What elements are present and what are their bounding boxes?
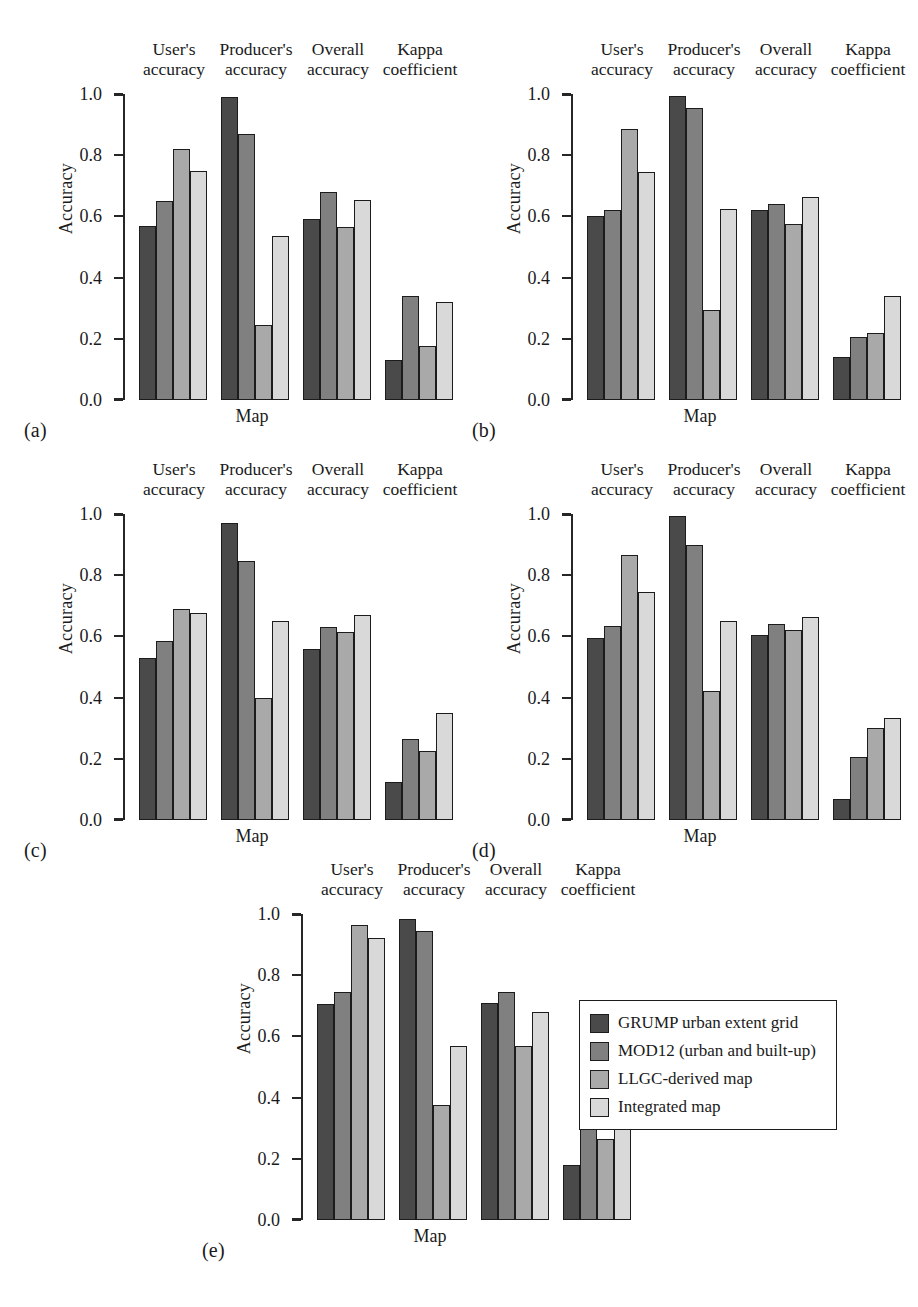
- y-axis-tick: [562, 697, 571, 699]
- bar: [272, 236, 289, 400]
- x-axis-label: Map: [172, 826, 332, 847]
- y-axis-tick-label: 0.4: [238, 1089, 280, 1107]
- x-axis-label: Map: [350, 1226, 510, 1247]
- bar: [850, 337, 867, 400]
- y-axis-tick: [562, 513, 571, 515]
- bar: [337, 227, 354, 400]
- panel-label: (b): [472, 419, 496, 442]
- bar: [833, 357, 850, 400]
- bar: [768, 204, 785, 400]
- group-header-line2: coefficient: [372, 480, 468, 500]
- y-axis-tick-label: 0.0: [60, 391, 102, 409]
- chart-panel-a: Accuracy1.00.80.60.40.20.0User'saccuracy…: [22, 38, 452, 456]
- series-1-swatch: [590, 1042, 609, 1061]
- y-axis-tick-label: 0.8: [238, 966, 280, 984]
- y-axis-tick-label: 0.6: [60, 207, 102, 225]
- y-axis-tick: [562, 574, 571, 576]
- bar: [337, 632, 354, 820]
- y-axis-tick: [292, 913, 301, 915]
- legend-item: Integrated map: [590, 1093, 822, 1121]
- y-axis-tick-label: 0.2: [60, 330, 102, 348]
- x-axis-label: Map: [620, 826, 780, 847]
- bar: [436, 302, 453, 400]
- bar: [399, 919, 416, 1220]
- bar: [669, 96, 686, 400]
- bar: [785, 630, 802, 820]
- legend-item: MOD12 (urban and built-up): [590, 1037, 822, 1065]
- bar: [156, 641, 173, 820]
- bar: [703, 310, 720, 400]
- panel-label: (e): [202, 1239, 225, 1262]
- group-header-line1: Kappa: [372, 40, 468, 60]
- bar: [272, 621, 289, 820]
- legend: GRUMP urban extent gridMOD12 (urban and …: [579, 1000, 837, 1130]
- y-axis-tick: [562, 93, 571, 95]
- bar: [481, 1003, 498, 1220]
- chart-panel-c: Accuracy1.00.80.60.40.20.0User'saccuracy…: [22, 458, 452, 876]
- bar: [173, 149, 190, 400]
- bar: [802, 197, 819, 400]
- y-axis-tick-label: 0.6: [508, 627, 550, 645]
- bar: [751, 210, 768, 400]
- bar: [255, 698, 272, 820]
- bar: [850, 757, 867, 820]
- bar-group: [139, 514, 209, 820]
- series-0-swatch: [590, 1014, 609, 1033]
- y-axis-tick: [114, 277, 123, 279]
- y-axis-tick: [562, 819, 571, 821]
- y-axis-tick: [292, 1097, 301, 1099]
- group-header: Kappacoefficient: [820, 460, 916, 499]
- y-axis-tick: [114, 819, 123, 821]
- panel-label: (a): [24, 419, 47, 442]
- y-axis-tick-label: 0.8: [508, 146, 550, 164]
- bar: [354, 615, 371, 820]
- bar-group: [399, 914, 469, 1220]
- bar: [303, 219, 320, 400]
- bar: [402, 296, 419, 400]
- bar: [884, 718, 901, 821]
- bar-group: [303, 94, 373, 400]
- bar: [751, 635, 768, 820]
- y-axis-tick: [114, 758, 123, 760]
- x-axis-label: Map: [172, 406, 332, 427]
- bar: [385, 360, 402, 400]
- y-axis-tick-label: 1.0: [60, 505, 102, 523]
- group-header-line2: coefficient: [820, 480, 916, 500]
- y-axis-tick: [562, 635, 571, 637]
- bar-group: [669, 94, 739, 400]
- legend-label: MOD12 (urban and built-up): [618, 1041, 816, 1061]
- series-2-swatch: [590, 1070, 609, 1089]
- bar-group: [139, 94, 209, 400]
- series-3-swatch: [590, 1098, 609, 1117]
- y-axis-tick-label: 0.4: [60, 689, 102, 707]
- y-axis-tick-label: 0.8: [60, 146, 102, 164]
- bar-group: [833, 94, 903, 400]
- bar: [515, 1046, 532, 1220]
- y-axis-tick: [114, 93, 123, 95]
- y-axis-tick: [114, 154, 123, 156]
- bar: [433, 1105, 450, 1220]
- y-axis-tick: [562, 758, 571, 760]
- bar: [768, 624, 785, 820]
- y-axis-tick: [292, 1219, 301, 1221]
- y-axis-tick-label: 0.2: [508, 330, 550, 348]
- chart-panel-b: Accuracy1.00.80.60.40.20.0User'saccuracy…: [470, 38, 900, 456]
- bar: [604, 626, 621, 820]
- y-axis-tick: [292, 1035, 301, 1037]
- group-header-line1: Kappa: [820, 40, 916, 60]
- group-header: Kappacoefficient: [372, 40, 468, 79]
- bar: [638, 172, 655, 400]
- plot-area: [573, 94, 891, 400]
- bar: [720, 621, 737, 820]
- bar: [867, 333, 884, 400]
- y-axis-tick-label: 0.6: [60, 627, 102, 645]
- bar: [498, 992, 515, 1220]
- bar: [354, 200, 371, 400]
- bar: [802, 617, 819, 820]
- bar: [638, 592, 655, 820]
- bar-group: [221, 94, 291, 400]
- y-axis-tick-label: 0.4: [508, 269, 550, 287]
- bar: [190, 171, 207, 401]
- bar: [190, 613, 207, 820]
- bar: [833, 799, 850, 820]
